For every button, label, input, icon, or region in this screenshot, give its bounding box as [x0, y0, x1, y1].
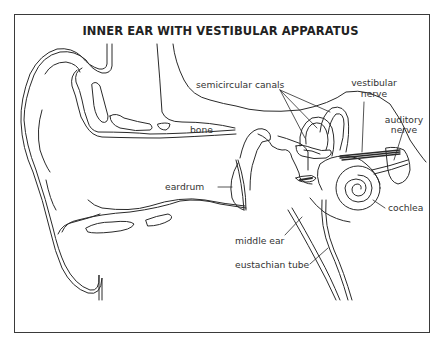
- eardrum-shape: [231, 160, 246, 210]
- outer-ear-pinna: [21, 44, 112, 300]
- label-eardrum: eardrum: [165, 182, 204, 192]
- leader-cochlea: [373, 200, 385, 208]
- label-eustachian-tube: eustachian tube: [235, 260, 309, 270]
- bone-outline: [157, 44, 426, 162]
- label-bone: bone: [190, 125, 213, 135]
- cochlea-shape: [336, 166, 380, 210]
- leader-vestibular-nerve: [362, 102, 364, 152]
- leader-canal-2: [280, 90, 305, 138]
- label-vestibular-nerve-line1: vestibular: [344, 78, 404, 88]
- eustachian-tube: [288, 200, 352, 300]
- label-middle-ear: middle ear: [235, 236, 284, 246]
- label-cochlea: cochlea: [388, 203, 423, 213]
- label-vestibular-nerve-line2: nerve: [344, 89, 404, 99]
- leader-canal-1: [280, 90, 317, 128]
- ear-canal-lower-wall: [58, 199, 246, 234]
- label-auditory-nerve-line2: nerve: [374, 125, 434, 135]
- label-semicircular-canals: semicircular canals: [196, 80, 284, 90]
- nerves: [340, 147, 410, 184]
- ear-anatomy-drawing: [0, 0, 441, 344]
- leader-eustachian-tube: [310, 248, 328, 264]
